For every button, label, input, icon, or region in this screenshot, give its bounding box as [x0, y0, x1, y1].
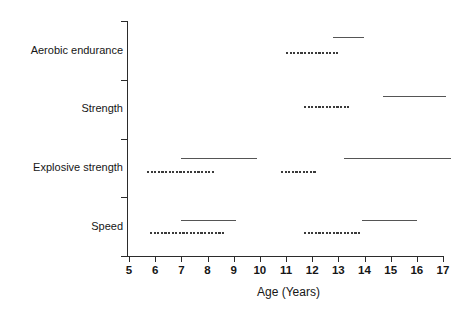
x-axis-tick-label: 8 [196, 264, 220, 276]
x-axis-tick-label: 13 [326, 264, 350, 276]
y-axis-label-speed: Speed [91, 220, 123, 232]
y-axis-tick [121, 256, 128, 257]
x-axis-tick [260, 256, 261, 262]
x-axis-tick [208, 256, 209, 262]
data-bar [147, 171, 215, 173]
x-axis-tick-label: 16 [405, 264, 429, 276]
data-bar [344, 158, 451, 159]
y-axis-tick [121, 80, 128, 81]
x-axis-tick [365, 256, 366, 262]
chart-figure: Aerobic endurance Strength Explosive str… [0, 0, 465, 317]
x-axis-tick-label: 10 [248, 264, 272, 276]
y-axis-tick [121, 197, 128, 198]
x-axis-tick-label: 9 [222, 264, 246, 276]
y-axis-label-aerobic-endurance: Aerobic endurance [31, 44, 123, 56]
x-axis-tick [286, 256, 287, 262]
x-axis-title: Age (Years) [0, 285, 465, 299]
x-axis-tick [338, 256, 339, 262]
y-axis-tick [121, 139, 128, 140]
x-axis-tick [155, 256, 156, 262]
data-bar [304, 106, 348, 108]
x-axis-tick-label: 7 [169, 264, 193, 276]
x-axis-tick [181, 256, 182, 262]
x-axis-tick [129, 256, 130, 262]
y-axis-labels: Aerobic endurance Strength Explosive str… [0, 0, 123, 317]
x-axis-tick [417, 256, 418, 262]
data-bar [281, 171, 318, 173]
x-axis-tick [234, 256, 235, 262]
x-axis-tick-label: 12 [300, 264, 324, 276]
x-axis-tick-label: 15 [379, 264, 403, 276]
x-axis-tick [391, 256, 392, 262]
data-bar [181, 220, 236, 221]
y-axis-label-strength: Strength [81, 102, 123, 114]
y-axis-label-explosive-strength: Explosive strength [33, 161, 123, 173]
x-axis-tick-label: 17 [431, 264, 455, 276]
x-axis-title-text: Age (Years) [257, 285, 320, 299]
data-bar [362, 220, 417, 221]
x-axis-tick-label: 6 [143, 264, 167, 276]
x-axis-tick [312, 256, 313, 262]
data-bar [333, 37, 364, 38]
data-bar [304, 232, 362, 234]
x-axis-tick-label: 5 [117, 264, 141, 276]
data-bar [181, 158, 257, 159]
data-bar [286, 52, 338, 54]
y-axis-tick [121, 21, 128, 22]
x-axis-tick-label: 14 [353, 264, 377, 276]
x-axis-tick-label: 11 [274, 264, 298, 276]
x-axis-tick [443, 256, 444, 262]
data-bar [150, 232, 226, 234]
data-bar [383, 96, 446, 97]
